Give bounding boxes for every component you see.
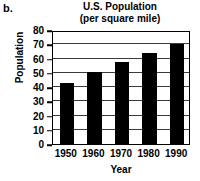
bar bbox=[60, 83, 74, 144]
chart-title-block: U.S. Population (per square mile) bbox=[42, 1, 198, 25]
x-tick-label: 1980 bbox=[137, 148, 159, 160]
x-axis-ticks: 19501960197019801990 bbox=[52, 148, 190, 162]
figure-label: b. bbox=[3, 2, 13, 14]
bar bbox=[170, 44, 184, 144]
y-tick-label: 20 bbox=[33, 112, 44, 122]
chart-subtitle: (per square mile) bbox=[42, 13, 198, 25]
figure-panel: b. U.S. Population (per square mile) Pop… bbox=[0, 0, 200, 181]
y-tick-label: 30 bbox=[33, 97, 44, 107]
chart-title: U.S. Population bbox=[42, 1, 198, 13]
y-tick-label: 60 bbox=[33, 55, 44, 65]
y-tick-label: 80 bbox=[33, 26, 44, 36]
x-axis-title: Year bbox=[52, 164, 190, 176]
bar bbox=[142, 53, 156, 144]
x-tick-label: 1960 bbox=[82, 148, 104, 160]
bar-series bbox=[53, 32, 189, 144]
plot-area bbox=[52, 31, 190, 145]
bar bbox=[87, 72, 101, 144]
y-tick-label: 50 bbox=[33, 69, 44, 79]
y-tick-label: 0 bbox=[38, 140, 44, 150]
x-tick-label: 1990 bbox=[165, 148, 187, 160]
y-axis-ticks: 01020304050607080 bbox=[0, 31, 52, 145]
y-tick-label: 70 bbox=[33, 40, 44, 50]
y-tick-label: 10 bbox=[33, 126, 44, 136]
x-tick-label: 1970 bbox=[110, 148, 132, 160]
x-tick-label: 1950 bbox=[55, 148, 77, 160]
y-tick-label: 40 bbox=[33, 83, 44, 93]
bar bbox=[115, 62, 129, 144]
